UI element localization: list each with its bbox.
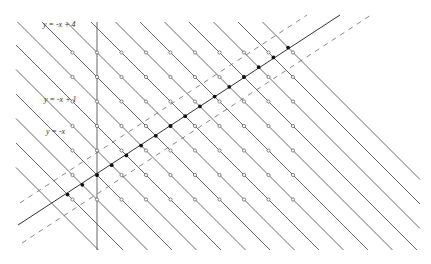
lattice-point [95,75,98,78]
lattice-point [218,124,221,127]
lattice-point [144,173,147,176]
intersection-point [227,85,231,89]
lattice-points-open [71,51,295,201]
lattice-point [144,51,147,54]
label-line-k4: y = -x + 4 [43,20,76,29]
lattice-point [193,198,196,201]
lattice-point [95,51,98,54]
lattice-point [95,198,98,201]
lattice-point [169,51,172,54]
intersection-point [139,144,143,148]
lattice-point [120,75,123,78]
lattice-point [242,198,245,201]
intersection-point [169,124,173,128]
lattice-point [120,124,123,127]
lattice-point [291,198,294,201]
lattice-point [218,198,221,201]
lattice-point [169,75,172,78]
lattice-point [95,149,98,152]
intersection-point [257,65,261,69]
intersection-point [154,134,158,138]
lattice-point [71,149,74,152]
lattice-point [291,149,294,152]
lattice-point [144,198,147,201]
lattice-point [218,75,221,78]
lattice-point [71,51,74,54]
lattice-point [242,173,245,176]
lattice-point [120,51,123,54]
diagonal-line-k12 [238,22,420,204]
lattice-point [267,149,270,152]
lattice-point [169,173,172,176]
lattice-point [218,100,221,103]
lattice-point [291,100,294,103]
lattice-point [71,124,74,127]
intersection-point [95,173,99,177]
intersection-point [272,56,276,60]
lattice-point [242,100,245,103]
lattice-point [120,173,123,176]
lattice-point [291,75,294,78]
dashed-line-2 [22,15,371,243]
intersection-point [80,183,84,187]
lattice-point [71,75,74,78]
lattice-point [267,100,270,103]
diagonal-line-k5 [67,22,295,250]
diagonal-line-k7 [116,22,344,250]
diagonal-line-k0 [16,94,172,250]
lattice-point [267,173,270,176]
lattice-point [169,149,172,152]
diagonal-line-k8 [140,22,368,250]
intersection-point [242,75,246,79]
lattice-diagram: y = -x + 4 y = -x + 1 y = -x [0,0,431,264]
diagonal-line-k6 [91,22,319,250]
intersection-point [110,163,114,167]
lattice-point [291,51,294,54]
lattice-point [120,149,123,152]
lattice-point [144,100,147,103]
lattice-point [193,124,196,127]
diagonal-line-k2 [16,45,221,250]
lattice-point [242,124,245,127]
lattice-point [291,173,294,176]
lattice-point [242,51,245,54]
diagonal-line-k-2 [16,143,123,250]
lattice-point [193,75,196,78]
lattice-point [144,75,147,78]
lattice-point [218,149,221,152]
lattice-point [144,124,147,127]
lattice-point [193,173,196,176]
intersection-point [213,95,217,99]
lattice-point [218,173,221,176]
lattice-point [120,198,123,201]
intersection-point [198,105,202,109]
lattice-point [95,124,98,127]
diagonal-line-k10 [189,22,417,250]
intersection-point [183,114,187,118]
lattice-point [267,51,270,54]
lattice-point [71,173,74,176]
diagonal-line-k-3 [16,168,99,251]
lattice-point [193,51,196,54]
lattice-point [267,124,270,127]
lattice-point [291,124,294,127]
intersection-point [66,193,70,197]
lattice-point [267,198,270,201]
label-line-k0: y = -x [46,127,65,136]
lattice-point [267,75,270,78]
diagonal-line-k13 [263,22,421,180]
lattice-point [218,51,221,54]
intersection-point [125,154,129,158]
diagonal-line-k9 [165,22,393,250]
lattice-point [120,100,123,103]
diagonal-line-family [16,22,420,250]
lattice-point [71,198,74,201]
label-line-k1: y = -x + 1 [44,95,77,104]
diagonal-line-k3 [18,22,246,250]
lattice-point [193,149,196,152]
dashed-boundary-lines [20,15,371,243]
intersection-point [286,46,290,50]
lattice-point [144,149,147,152]
lattice-point [95,100,98,103]
lattice-point [169,198,172,201]
